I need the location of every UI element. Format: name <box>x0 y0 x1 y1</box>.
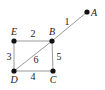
node-label-e: E <box>10 26 17 37</box>
node-b <box>49 38 54 43</box>
edge-weight-label: 2 <box>31 28 36 39</box>
edge-weight-label: 5 <box>57 51 62 62</box>
node-d <box>11 68 16 73</box>
node-label-d: D <box>9 74 18 85</box>
edge-weight-label: 6 <box>34 54 39 65</box>
node-e <box>11 38 16 43</box>
node-label-a: A <box>90 7 98 18</box>
node-label-c: C <box>50 74 57 85</box>
node-c <box>50 68 55 73</box>
edge-b-c <box>52 41 53 71</box>
edge-weight-label: 4 <box>31 71 36 82</box>
edge-b-a <box>52 12 87 41</box>
edge-weight-label: 1 <box>65 16 70 27</box>
edge-weight-label: 3 <box>7 51 12 62</box>
node-labels: ABEDC <box>9 7 98 85</box>
weighted-graph-diagram: 123456 ABEDC <box>0 0 105 90</box>
node-a <box>84 9 89 14</box>
node-label-b: B <box>49 26 55 37</box>
